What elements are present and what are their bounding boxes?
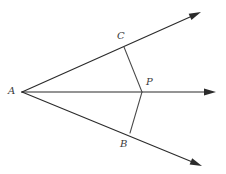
geometry-canvas xyxy=(0,0,226,174)
segment-pb xyxy=(130,92,142,133)
ray-lower xyxy=(22,92,194,163)
label-point-p: P xyxy=(146,77,153,87)
ray-middle-arrowhead-icon xyxy=(204,89,216,96)
ray-lower-arrowhead-icon xyxy=(190,158,202,166)
segment-cp xyxy=(124,47,142,92)
label-point-a: A xyxy=(8,86,15,96)
ray-upper xyxy=(22,16,193,92)
ray-upper-arrowhead-icon xyxy=(189,12,201,20)
geometry-figure: A C P B xyxy=(0,0,226,174)
label-point-c: C xyxy=(117,31,125,41)
label-point-b: B xyxy=(120,139,127,149)
